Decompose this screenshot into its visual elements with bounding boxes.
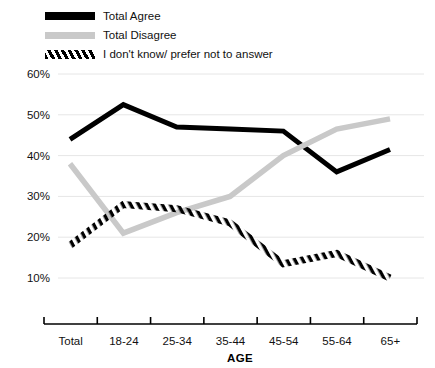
y-axis-tick-label: 10%: [8, 272, 50, 284]
series-lines: [70, 105, 390, 278]
x-axis-tick-label: 35-44: [216, 335, 245, 347]
chart-canvas: [0, 0, 435, 368]
x-axis-tick-label: 18-24: [109, 335, 138, 347]
x-axis: [44, 317, 417, 324]
y-axis-tick-label: 50%: [8, 109, 50, 121]
x-axis-tick-label: 45-54: [269, 335, 298, 347]
y-axis-tick-label: 30%: [8, 190, 50, 202]
series-line-2: [70, 205, 390, 278]
gridlines: [58, 74, 424, 278]
chart-container: Total Agree Total Disagree I don't know/…: [0, 0, 435, 368]
x-axis-tick-label: 25-34: [162, 335, 191, 347]
y-axis-tick-label: 20%: [8, 231, 50, 243]
series-line-1: [70, 119, 390, 233]
plot-area: 60%50%40%30%20%10% Total18-2425-3435-444…: [0, 0, 435, 368]
x-axis-tick-label: 55-64: [322, 335, 351, 347]
x-axis-title: AGE: [227, 352, 253, 364]
y-axis-tick-label: 60%: [8, 68, 50, 80]
x-axis-tick-label: 65+: [381, 335, 401, 347]
y-axis-tick-label: 40%: [8, 150, 50, 162]
x-axis-tick-label: Total: [58, 335, 82, 347]
